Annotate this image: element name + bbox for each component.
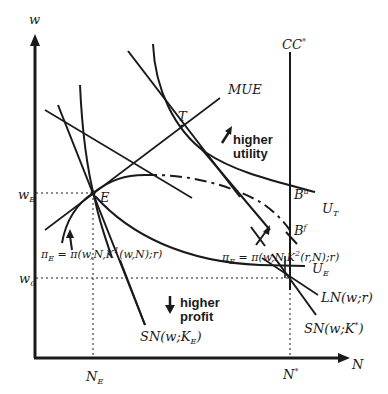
label-Bf: Bf	[294, 224, 307, 237]
point-T	[181, 125, 184, 128]
label-ln: LN(w;r)	[321, 291, 373, 304]
point-E	[91, 191, 96, 196]
label-T: T	[178, 110, 187, 123]
label-isoprofit-k1: πE = π(w,N,K1(w,N);r)	[41, 247, 162, 263]
label-sn-ke: SN(w;KE)	[140, 330, 202, 346]
x-axis-label: N	[352, 358, 363, 371]
label-sn-kstar: SN(w;K*)	[304, 322, 364, 335]
isoprofit-k1-lower	[62, 193, 93, 243]
label-cc-star: CC*	[282, 38, 306, 51]
tick-wE: wE	[18, 188, 35, 204]
y-axis-arrow-icon	[30, 34, 40, 46]
label-isoprofit-k2: πE = π(w,N,K2(r,N);r)	[222, 250, 339, 266]
tick-Nstar: N*	[283, 368, 298, 381]
straight-line-long	[45, 110, 192, 198]
label-Bu: Bu	[294, 188, 309, 201]
utility-arrow	[222, 132, 229, 143]
sn-ke-pointer	[120, 260, 145, 325]
tick-NE: NE	[86, 370, 103, 386]
label-mue: MUE	[228, 83, 262, 96]
mue-line	[45, 98, 220, 230]
higher-profit-note: higherprofit	[180, 296, 220, 323]
higher-utility-note: higherutility	[233, 133, 273, 160]
label-E: E	[100, 191, 110, 204]
label-ut: UT	[322, 202, 338, 218]
tick-w0: w0	[19, 272, 35, 288]
profit-arrow-head-icon	[165, 305, 175, 314]
x-axis-arrow-icon	[338, 353, 350, 363]
y-axis-label: w	[29, 13, 40, 26]
iso1-arrow-head-icon	[66, 229, 74, 238]
